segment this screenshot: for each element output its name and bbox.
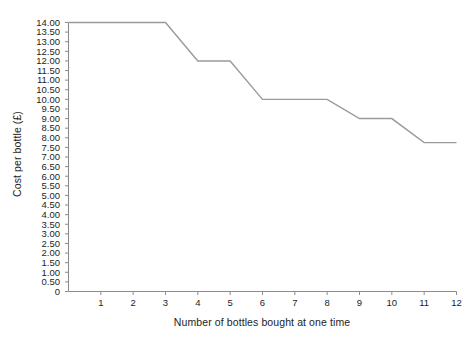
x-tick-label: 4 <box>183 297 213 308</box>
x-tick-label: 3 <box>151 297 181 308</box>
x-tick-label: 5 <box>215 297 245 308</box>
x-tick-label: 11 <box>409 297 439 308</box>
x-tick-label: 12 <box>442 297 472 308</box>
x-tick-label: 8 <box>312 297 342 308</box>
x-tick-label: 1 <box>86 297 116 308</box>
x-tick-label: 9 <box>345 297 375 308</box>
x-tick-label: 6 <box>248 297 278 308</box>
x-tick-label: 2 <box>118 297 148 308</box>
x-tick-label: 7 <box>280 297 310 308</box>
x-tick-label: 10 <box>377 297 407 308</box>
y-axis-title: Cost per bottle (£) <box>11 74 23 234</box>
cost-per-bottle-chart: 14.0013.5013.0012.5012.0011.5011.0010.50… <box>0 0 473 340</box>
x-axis-title: Number of bottles bought at one time <box>68 316 456 328</box>
x-axis-tick-labels: 123456789101112 <box>0 0 473 340</box>
